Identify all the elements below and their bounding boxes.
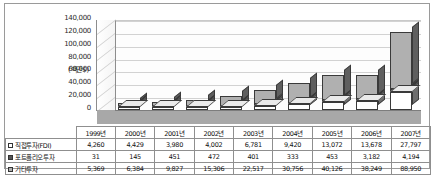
table-cell: 40,126 (312, 163, 351, 174)
table-row-legend: 기타투자 (6, 163, 77, 174)
table-cell: 4,260 (76, 139, 115, 151)
bar-segment-face (118, 107, 140, 110)
depth-side-wall (97, 20, 116, 110)
table-cell: 15,306 (194, 163, 233, 174)
bar-segment-fdi[interactable] (118, 107, 140, 110)
table-column-header: 2004년 (273, 127, 312, 139)
bar-segment-face (186, 107, 208, 110)
table-cell: 9,420 (273, 139, 312, 151)
table-row-legend: 직접투자(FDI) (6, 139, 77, 151)
y-axis-tick-label: 120,000 (64, 27, 91, 35)
bar-segment-face (152, 107, 174, 110)
table-cell: 333 (273, 151, 312, 163)
bar-column[interactable] (118, 103, 140, 110)
bar-segment-face (288, 104, 310, 110)
legend-swatch-icon (8, 167, 13, 172)
table-cell: 145 (115, 151, 154, 163)
depth-gridline (97, 32, 116, 48)
bar-segment-fdi[interactable] (152, 107, 174, 110)
table-cell: 13,072 (312, 139, 351, 151)
table-row: 직접투자(FDI)4,2604,4293,9804,0026,7819,4201… (6, 139, 431, 151)
bar-segment-face (390, 32, 412, 89)
table-cell: 472 (194, 151, 233, 163)
chart-frame: (백만$) 020,00040,00060,00080,000100,00012… (4, 3, 430, 169)
legend-swatch-icon (8, 155, 13, 160)
y-axis-tick-label: 0 (87, 104, 91, 112)
table-cell: 3,182 (352, 151, 391, 163)
bar-segment-fdi[interactable] (322, 102, 344, 110)
bar-segment-fdi[interactable] (220, 107, 242, 110)
y-axis-tick-label: 20,000 (68, 91, 91, 99)
bar-column[interactable] (356, 75, 378, 110)
table-row-legend: 포트폴리오투자 (6, 151, 77, 163)
table-column-header: 2003년 (234, 127, 273, 139)
table-cell: 30,756 (273, 163, 312, 174)
bar-segment-fdi[interactable] (288, 104, 310, 110)
table-cell: 401 (234, 151, 273, 163)
plot-area: (백만$) 020,00040,00060,00080,000100,00012… (5, 4, 431, 126)
table-header-row: 1999년2000년2001년2002년2003년2004년2005년2006년… (6, 127, 431, 139)
table-cell: 6,781 (234, 139, 273, 151)
bar-segment-face (356, 101, 378, 110)
table-column-header: 2006년 (352, 127, 391, 139)
bar-column[interactable] (220, 96, 242, 110)
table-cell: 9,827 (155, 163, 194, 174)
bar-segment-fdi[interactable] (186, 107, 208, 110)
depth-gridline (97, 45, 116, 61)
table-cell: 3,980 (155, 139, 194, 151)
data-table-container: 1999년2000년2001년2002년2003년2004년2005년2006년… (5, 126, 431, 170)
table-cell: 4,429 (115, 139, 154, 151)
table-cell: 451 (155, 151, 194, 163)
bar-segment-face (322, 102, 344, 110)
table-cell: 4,194 (391, 151, 431, 163)
bar-top-face (118, 100, 148, 107)
table-column-header: 2005년 (312, 127, 351, 139)
bar-column[interactable] (254, 90, 276, 110)
bar-top-face (186, 100, 216, 107)
table-cell: 88,950 (391, 163, 431, 174)
legend-label: 기타투자 (15, 166, 37, 174)
bar-column[interactable] (186, 100, 208, 110)
y-axis-tick-label: 60,000 (68, 65, 91, 73)
bar-top-face (220, 100, 250, 107)
table-column-header: 2000년 (115, 127, 154, 139)
bar-column[interactable] (152, 102, 174, 110)
bar-segment-fdi[interactable] (390, 92, 412, 110)
table-corner-cell (6, 127, 77, 139)
y-axis-tick-label: 140,000 (64, 14, 91, 22)
table-column-header: 1999년 (76, 127, 115, 139)
table-cell: 27,797 (391, 139, 431, 151)
y-axis-tick-label: 80,000 (68, 53, 91, 61)
table-cell: 5,369 (76, 163, 115, 174)
legend-swatch-icon (8, 143, 13, 148)
table-cell: 38,249 (352, 163, 391, 174)
y-axis-line (96, 20, 97, 111)
table-row: 기타투자5,3696,3849,82715,30622,51730,75640,… (6, 163, 431, 174)
data-table: 1999년2000년2001년2002년2003년2004년2005년2006년… (5, 126, 431, 173)
bar-series-container (115, 20, 421, 124)
y-axis-tick-label: 40,000 (68, 78, 91, 86)
bar-column[interactable] (288, 83, 310, 110)
y-axis-tick-label: 100,000 (64, 40, 91, 48)
table-cell: 6,384 (115, 163, 154, 174)
bar-segment-fdi[interactable] (254, 106, 276, 110)
legend-label: 포트폴리오투자 (15, 154, 54, 162)
bar-column[interactable] (322, 75, 344, 110)
table-cell: 22,517 (234, 163, 273, 174)
bar-segment-face (220, 107, 242, 110)
table-cell: 453 (312, 151, 351, 163)
bar-segment-face (254, 106, 276, 110)
table-row: 포트폴리오투자311454514724013334533,1824,194 (6, 151, 431, 163)
bar-segment-fdi[interactable] (356, 101, 378, 110)
bar-column[interactable] (390, 32, 412, 110)
y-axis-tick-labels: 020,00040,00060,00080,000100,000120,0001… (45, 18, 91, 118)
table-body: 직접투자(FDI)4,2604,4293,9804,0026,7819,4201… (6, 139, 431, 174)
table-column-header: 2007년 (391, 127, 431, 139)
bar-segment-side (412, 22, 419, 85)
table-cell: 13,678 (352, 139, 391, 151)
table-column-header: 2001년 (155, 127, 194, 139)
table-cell: 4,002 (194, 139, 233, 151)
bar-segment-face (390, 92, 412, 110)
bar-segment-other[interactable] (390, 32, 412, 89)
table-cell: 31 (76, 151, 115, 163)
